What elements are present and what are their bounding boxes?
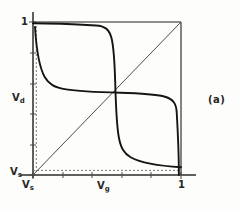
panel-label: (a): [208, 95, 225, 105]
unity-diagonal-line: [33, 22, 181, 175]
y-axis-label-text: V: [12, 92, 20, 103]
x-axis-origin-tick-subscript: s: [30, 184, 34, 192]
x-axis-origin-tick-label: Vs: [22, 180, 34, 190]
y-axis-top-tick-label: 1: [21, 17, 28, 27]
y-axis-bottom-tick-label: Vs: [10, 167, 22, 177]
y-axis-bottom-tick-text: V: [10, 166, 18, 177]
vtc-butterfly-plot: [0, 0, 240, 211]
y-axis-bottom-tick-subscript: s: [18, 171, 22, 179]
mirrored-vtc-curve: [35, 27, 179, 175]
figure-panel-a: 1 Vd Vs Vs Vg 1 (a): [0, 0, 240, 211]
y-axis-label-subscript: d: [20, 97, 25, 105]
x-axis-label-text: V: [97, 180, 105, 191]
x-axis-label-subscript: g: [105, 185, 110, 193]
x-axis-origin-tick-text: V: [22, 179, 30, 190]
y-axis-label: Vd: [12, 93, 25, 103]
x-axis-label: Vg: [97, 181, 110, 191]
x-axis-right-tick-label: 1: [178, 180, 185, 190]
